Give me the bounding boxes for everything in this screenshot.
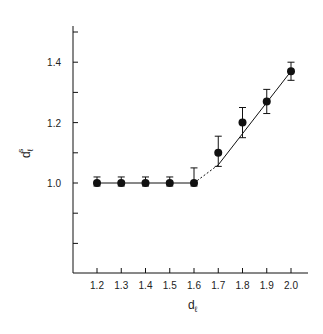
line-linear-fit	[218, 71, 291, 165]
data-point	[117, 177, 125, 187]
x-tick-label: 1.5	[163, 280, 177, 291]
y-tick-label: 1.4	[47, 57, 61, 68]
x-tick-label: 1.3	[114, 280, 128, 291]
data-point	[142, 177, 150, 187]
marker-circle	[93, 179, 101, 187]
y-axis-label: dℓs	[16, 148, 35, 158]
marker-circle	[239, 119, 247, 127]
x-axis-label: dℓ	[188, 298, 198, 314]
data-point	[93, 177, 101, 187]
data-points	[93, 62, 295, 187]
svg-text:dℓs: dℓs	[16, 148, 35, 158]
svg-text:dℓ: dℓ	[188, 298, 198, 314]
data-point	[166, 177, 174, 187]
line-crossover	[194, 165, 218, 183]
x-tick-label: 1.7	[211, 280, 225, 291]
marker-circle	[214, 149, 222, 157]
y-tick-label: 1.2	[47, 118, 61, 129]
x-tick-label: 1.4	[139, 280, 153, 291]
data-point	[263, 89, 271, 113]
chart-canvas: 1.21.31.41.51.61.71.81.92.01.01.21.4 dℓ …	[0, 0, 323, 334]
x-tick-label: 1.2	[90, 280, 104, 291]
data-point	[190, 168, 198, 187]
marker-circle	[117, 179, 125, 187]
fit-lines	[97, 71, 291, 183]
marker-circle	[263, 97, 271, 105]
x-tick-label: 1.6	[187, 280, 201, 291]
x-tick-label: 1.8	[236, 280, 250, 291]
marker-circle	[190, 179, 198, 187]
x-tick-label: 1.9	[260, 280, 274, 291]
data-point	[239, 108, 247, 138]
x-tick-label: 2.0	[284, 280, 298, 291]
axes: 1.21.31.41.51.61.71.81.92.01.01.21.4	[47, 26, 308, 291]
marker-circle	[166, 179, 174, 187]
y-tick-label: 1.0	[47, 178, 61, 189]
marker-circle	[142, 179, 150, 187]
data-point	[287, 62, 295, 80]
marker-circle	[287, 67, 295, 75]
